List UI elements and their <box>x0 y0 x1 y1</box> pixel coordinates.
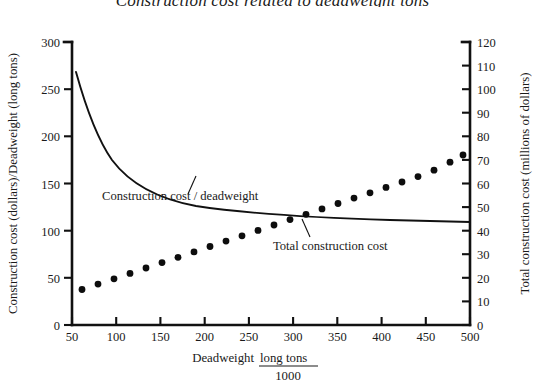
right-tick-label: 10 <box>477 295 490 309</box>
right-axis: 120 110 100 90 80 70 60 50 40 30 20 10 0… <box>462 36 532 333</box>
annotation-leader-line <box>302 219 310 237</box>
x-tick-label: 100 <box>107 330 126 344</box>
right-tick-label: 70 <box>477 154 490 168</box>
right-tick-label: 30 <box>477 248 490 262</box>
x-axis-title-denominator: 1000 <box>275 369 301 383</box>
x-tick-label: 250 <box>240 330 259 344</box>
right-axis-title: Total construction cost (millions of dol… <box>518 73 532 295</box>
annotation-label: Construction cost / deadweight <box>102 189 259 203</box>
left-tick-label: 50 <box>48 272 61 286</box>
annotation-label: Total construction cost <box>273 239 388 253</box>
x-tick-label: 500 <box>461 330 480 344</box>
x-tick-labels: 50 100 150 200 250 300 350 400 450 500 <box>66 330 480 344</box>
right-tick-label: 80 <box>477 130 490 144</box>
x-tick-label: 50 <box>66 330 79 344</box>
left-tick-label: 100 <box>41 225 60 239</box>
right-tick-labels: 120 110 100 90 80 70 60 50 40 30 20 10 0 <box>477 36 496 333</box>
right-tick-label: 60 <box>477 178 490 192</box>
x-tick-label: 450 <box>416 330 435 344</box>
x-tick-label: 400 <box>372 330 391 344</box>
left-tick-label: 150 <box>41 178 60 192</box>
left-tick-label: 0 <box>54 319 60 333</box>
left-tick-label: 300 <box>41 36 60 50</box>
x-tick-label: 200 <box>195 330 214 344</box>
series-total-construction-cost <box>79 152 467 293</box>
chart-figure: 300 250 200 150 100 50 0 Construction co… <box>0 0 545 391</box>
x-axis-title-numerator: long tons <box>260 351 307 365</box>
x-tick-label: 300 <box>284 330 303 344</box>
x-axis-title-lead: Deadweight <box>192 351 254 365</box>
annotation-construction-cost-per-deadweight: Construction cost / deadweight <box>102 176 259 203</box>
right-tick-label: 20 <box>477 272 490 286</box>
x-axis-title: Deadweight long tons 1000 <box>192 351 318 383</box>
x-tick-label: 350 <box>328 330 347 344</box>
left-tick-labels: 300 250 200 150 100 50 0 <box>41 36 60 333</box>
left-axis-title: Construction cost (dollars)/Deadweight (… <box>6 53 20 314</box>
left-tick-label: 250 <box>41 83 60 97</box>
left-axis: 300 250 200 150 100 50 0 Construction co… <box>6 36 72 333</box>
x-tick-label: 150 <box>151 330 170 344</box>
right-tick-label: 90 <box>477 107 490 121</box>
right-tick-label: 40 <box>477 225 490 239</box>
right-tick-label: 110 <box>477 60 495 74</box>
right-tick-label: 100 <box>477 83 496 97</box>
annotation-total-construction-cost: Total construction cost <box>273 219 388 253</box>
right-tick-label: 120 <box>477 36 496 50</box>
right-tick-label: 50 <box>477 201 490 215</box>
x-axis: 50 100 150 200 250 300 350 400 450 500 D… <box>66 317 480 383</box>
left-tick-label: 200 <box>41 130 60 144</box>
